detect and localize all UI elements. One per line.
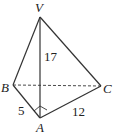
vertex-label-a: A: [35, 120, 44, 135]
edge-label-ac: 12: [72, 104, 85, 119]
vertex-label-b: B: [1, 80, 9, 95]
edge-bc-hidden: [13, 85, 101, 86]
edge-vb: [13, 17, 40, 85]
vertex-label-v: V: [35, 0, 45, 15]
tetrahedron-diagram: V B C A 17 5 12: [0, 0, 118, 138]
edge-label-va: 17: [44, 49, 58, 64]
edge-ac: [40, 86, 101, 118]
vertex-label-c: C: [103, 81, 112, 96]
edge-label-ba: 5: [18, 103, 25, 118]
